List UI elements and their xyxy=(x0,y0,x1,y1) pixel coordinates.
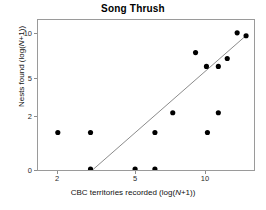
data-point xyxy=(225,56,230,61)
x-tick-label-2: 2 xyxy=(55,174,59,183)
plot-area xyxy=(37,19,255,171)
x-axis-title: CBC territories recorded (log(N+1)) xyxy=(0,188,266,197)
x-axis-title-prefix: CBC territories recorded (log( xyxy=(71,188,175,197)
data-point xyxy=(216,64,221,69)
x-tick-label-10: 10 xyxy=(201,174,209,183)
regression-line xyxy=(92,34,248,170)
y-tick-label-0: 0 xyxy=(14,166,32,175)
data-point xyxy=(88,130,93,135)
data-point xyxy=(204,64,209,69)
data-point xyxy=(55,130,60,135)
data-point xyxy=(133,166,138,170)
y-axis-title-suffix: +1)) xyxy=(17,26,26,40)
x-axis-title-suffix: +1)) xyxy=(181,188,195,197)
chart-figure: Song Thrush 10 5 2 0 2 5 10 Nests found … xyxy=(0,0,266,210)
data-point xyxy=(193,50,198,55)
page-title: Song Thrush xyxy=(0,3,266,14)
y-axis-title-variable: N xyxy=(17,40,26,46)
data-point xyxy=(152,166,157,170)
scatter-canvas xyxy=(38,20,254,170)
data-point xyxy=(243,33,248,38)
data-point xyxy=(205,130,210,135)
data-point xyxy=(216,110,221,115)
data-point xyxy=(170,110,175,115)
data-point xyxy=(235,30,240,35)
y-axis-title: Nests found (log(N+1)) xyxy=(17,0,26,142)
data-point xyxy=(152,130,157,135)
y-axis-title-prefix: Nests found (log( xyxy=(17,46,26,107)
data-point xyxy=(88,166,93,170)
x-tick-label-5: 5 xyxy=(133,174,137,183)
